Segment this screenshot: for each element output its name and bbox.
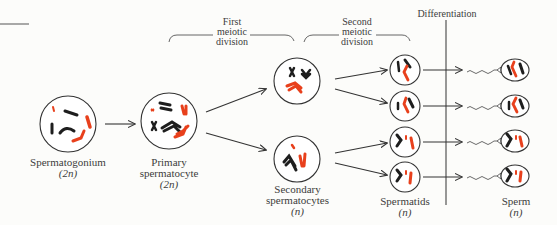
differentiation-label: Differentiation xyxy=(412,9,482,19)
first-meiotic-label: First meiotic division xyxy=(206,17,258,47)
arrow xyxy=(335,163,387,175)
ploidy: (n) xyxy=(496,207,536,218)
spermatids-label: Spermatids (n) xyxy=(372,196,438,218)
ploidy: (2n) xyxy=(134,179,204,190)
secondary-spermatocyte-cell xyxy=(274,58,320,104)
spermatid-cell xyxy=(390,55,420,85)
label-line: Differentiation xyxy=(412,9,482,19)
label-line: division xyxy=(206,37,258,47)
sperm-cell xyxy=(467,59,529,81)
arrow xyxy=(335,89,387,103)
ploidy: (n) xyxy=(260,206,335,217)
flagellum xyxy=(467,141,497,145)
spermatid-cell xyxy=(390,162,420,192)
flagellum xyxy=(467,106,497,110)
arrow xyxy=(335,70,387,79)
flagellum xyxy=(467,176,497,180)
chromosome-maternal xyxy=(53,107,54,111)
spermatogonium-label: Spermatogonium (2n) xyxy=(28,157,108,179)
spermatid-cell xyxy=(390,127,420,157)
sperm-cell xyxy=(467,95,529,117)
secondary-spermatocytes-label: Secondary spermatocytes (n) xyxy=(260,184,335,217)
primary-spermatocyte-cell xyxy=(141,93,197,149)
ploidy: (2n) xyxy=(28,168,108,179)
flagellum xyxy=(467,70,497,74)
ploidy: (n) xyxy=(372,207,438,218)
arrow xyxy=(206,89,266,112)
chromosome-maternal xyxy=(151,109,154,111)
secondary-spermatocyte-cell xyxy=(274,136,320,182)
second-meiotic-label: Second meiotic division xyxy=(331,17,383,47)
sperm-cell xyxy=(467,130,529,152)
spermatid-cell xyxy=(390,91,420,121)
sperm-label: Sperm (n) xyxy=(496,196,536,218)
arrow xyxy=(335,143,387,153)
arrow xyxy=(206,133,266,150)
primary-spermatocyte-label: Primary spermatocyte (2n) xyxy=(134,157,204,190)
sperm-cell xyxy=(467,165,529,187)
spermatogonium-cell xyxy=(40,96,96,152)
label-line: division xyxy=(331,37,383,47)
